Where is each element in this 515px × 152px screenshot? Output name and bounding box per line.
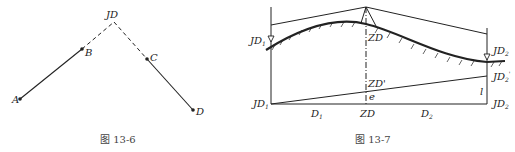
label-jd1-top: JD1 — [248, 35, 266, 47]
point-c-marker — [145, 57, 149, 61]
station-marker-jd1 — [268, 36, 274, 42]
label-c: C — [150, 52, 158, 63]
label-l: l — [480, 86, 483, 97]
point-d-marker — [191, 108, 195, 112]
figure-13-6: JD A B C D 图 13-6 — [11, 9, 204, 145]
dashed-jd-c — [114, 22, 147, 59]
line-c-d — [147, 59, 193, 110]
label-jd2-top: JD2 — [491, 45, 509, 57]
label-jd: JD — [104, 9, 118, 20]
label-jd2-bottom: JD2 — [491, 98, 509, 110]
label-zd-top: ZD — [367, 32, 383, 43]
line-a-b — [20, 49, 82, 99]
label-d: D — [195, 106, 204, 117]
caption-13-7: 图 13-7 — [355, 134, 391, 145]
label-jd2-prime: JD2' — [491, 70, 511, 83]
label-zd-prime: ZD' — [367, 78, 386, 89]
label-b: B — [84, 47, 92, 58]
figure-13-7: JD1 JD2 ZD ZD' e JD2' l JD1 JD2 ZD D1 D2… — [248, 7, 511, 145]
tripod-leg-right — [366, 7, 376, 26]
terrain-surface — [266, 22, 505, 62]
dashed-b-jd — [82, 22, 114, 49]
label-jd1-bottom: JD1 — [251, 98, 269, 110]
label-zd-bottom: ZD — [359, 108, 375, 119]
label-d1: D1 — [310, 108, 323, 120]
tripod-leg-left — [361, 7, 366, 23]
station-marker-jd2 — [484, 54, 490, 60]
label-e: e — [369, 91, 375, 102]
label-d2: D2 — [420, 108, 433, 120]
point-b-marker — [80, 47, 84, 51]
caption-13-6: 图 13-6 — [100, 134, 136, 145]
figures-canvas: JD A B C D 图 13-6 — [0, 0, 515, 152]
label-a: A — [11, 94, 19, 105]
